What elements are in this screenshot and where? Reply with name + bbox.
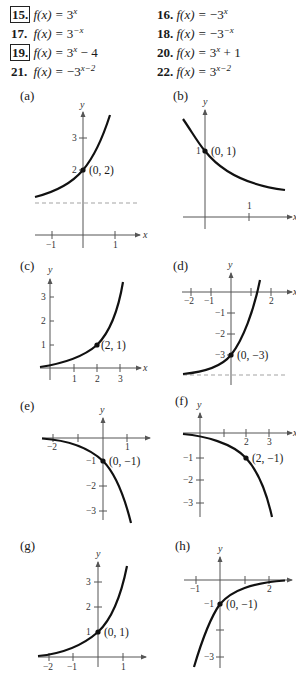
y-axis-label: y — [95, 548, 101, 559]
y-tick: 2 — [41, 316, 46, 326]
x-tick: 2 — [244, 437, 249, 447]
y-tick: −3 — [86, 506, 96, 516]
x-tick: −1 — [190, 584, 200, 594]
y-tick: −3 — [215, 350, 225, 360]
y-tick: −1 — [215, 308, 225, 318]
point-marker — [80, 167, 85, 172]
point-label: (2, −1) — [252, 452, 284, 465]
x-axis-label: x — [292, 427, 296, 438]
y-tick: 1 — [196, 146, 201, 156]
y-axis-label: y — [202, 96, 208, 107]
x-axis-label: x — [142, 362, 148, 373]
x-axis-label: x — [292, 286, 296, 297]
panel-label: (h) — [175, 538, 190, 553]
x-axis-label: x — [292, 211, 296, 222]
y-tick: 2 — [86, 602, 91, 612]
x-tick: −2 — [184, 296, 194, 306]
panel-label: (f) — [175, 393, 188, 408]
x-tick: −2 — [43, 662, 53, 672]
graph-b: (b) y x 1 1 (0, 1) — [173, 88, 296, 229]
x-tick: 2 — [95, 374, 100, 384]
y-tick: 2 — [72, 165, 77, 175]
x-tick: 1 — [72, 374, 77, 384]
graph-h: (h) y −1 2 −1 −3 (0, −1) — [175, 538, 292, 668]
graph-d: (d) y x −2 −1 2 −1 −2 −3 (0, −3) — [173, 258, 296, 385]
graph-panels: (a) y x −1 1 3 2 (0, 2) (b) y x 1 1 (0, … — [0, 0, 296, 673]
x-tick: 1 — [121, 662, 126, 672]
point-label: (0, −1) — [109, 455, 141, 468]
y-axis-label: y — [227, 259, 233, 270]
x-tick: 3 — [267, 437, 272, 447]
point-marker — [202, 148, 207, 153]
point-label: (0, −3) — [237, 349, 269, 362]
graph-a: (a) y x −1 1 3 2 (0, 2) — [20, 88, 148, 250]
point-marker — [217, 601, 222, 606]
y-axis-label: y — [217, 543, 223, 554]
curve — [35, 115, 110, 197]
x-tick: 1 — [125, 442, 130, 452]
x-tick: 1 — [113, 240, 118, 250]
x-tick: −1 — [204, 296, 214, 306]
y-axis-label: y — [47, 264, 53, 275]
panel-label: (b) — [173, 88, 188, 103]
graph-e: (e) y −2 1 −1 −2 −3 (0, −1) — [20, 398, 150, 523]
y-tick: 3 — [41, 292, 46, 302]
point-label: (2, 1) — [101, 339, 126, 352]
curve — [183, 434, 272, 517]
point-marker — [100, 458, 105, 463]
y-tick: −3 — [183, 498, 193, 508]
point-label: (0, 1) — [104, 626, 129, 639]
graph-f: (f) y x 2 3 −1 −2 −3 (2, −1) — [175, 393, 296, 517]
y-tick: −3 — [204, 652, 214, 662]
y-tick: −2 — [86, 481, 96, 491]
x-tick: −1 — [67, 662, 77, 672]
point-marker — [95, 629, 100, 634]
y-tick: 1 — [86, 627, 91, 637]
y-tick: −1 — [204, 599, 214, 609]
panel-label: (c) — [20, 258, 34, 273]
x-tick: 2 — [267, 584, 272, 594]
y-tick: 3 — [86, 577, 91, 587]
x-tick: 1 — [247, 201, 252, 211]
graph-c: (c) y x 1 2 3 3 2 1 (2, 1) — [20, 258, 148, 384]
point-marker — [243, 455, 248, 460]
curve — [40, 282, 123, 367]
point-marker — [228, 352, 233, 357]
x-tick: 2 — [269, 296, 274, 306]
panel-label: (a) — [20, 88, 34, 103]
x-axis-label: x — [142, 229, 148, 240]
y-tick: −1 — [183, 453, 193, 463]
curve — [38, 566, 127, 656]
y-tick: 1 — [41, 340, 46, 350]
y-tick: −2 — [215, 329, 225, 339]
panel-label: (g) — [20, 538, 35, 553]
panel-label: (d) — [173, 258, 188, 273]
y-axis-label: y — [79, 99, 85, 110]
x-tick: 3 — [118, 374, 123, 384]
y-axis-label: y — [196, 399, 202, 410]
point-label: (0, 1) — [211, 145, 236, 158]
panel-label: (e) — [20, 398, 34, 413]
y-tick: −2 — [183, 475, 193, 485]
point-label: (0, −1) — [226, 598, 258, 611]
x-tick: −2 — [47, 442, 57, 452]
y-tick: 3 — [72, 133, 77, 143]
x-tick: −1 — [46, 240, 56, 250]
y-tick: −1 — [86, 456, 96, 466]
point-label: (0, 2) — [89, 164, 114, 177]
y-axis-label: y — [99, 404, 105, 415]
point-marker — [94, 342, 99, 347]
graph-g: (g) y −2 −1 1 3 2 1 (0, 1) — [20, 538, 146, 672]
